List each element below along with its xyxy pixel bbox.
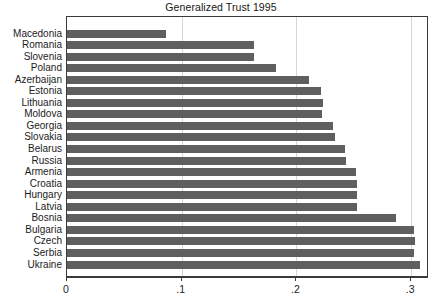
bar xyxy=(67,237,415,245)
x-tick-label: 0 xyxy=(54,283,78,295)
category-label: Russia xyxy=(0,155,62,166)
bar xyxy=(67,122,333,130)
x-tick xyxy=(181,277,182,281)
category-label: Lithuania xyxy=(0,97,62,108)
category-axis-labels: MacedoniaRomaniaSloveniaPolandAzerbaijan… xyxy=(0,16,62,277)
category-label: Romania xyxy=(0,39,62,50)
category-label: Serbia xyxy=(0,247,62,258)
category-label: Czech xyxy=(0,235,62,246)
x-tick-label: .3 xyxy=(398,283,422,295)
category-label: Belarus xyxy=(0,143,62,154)
x-tick xyxy=(410,277,411,281)
category-label: Macedonia xyxy=(0,28,62,39)
category-label: Moldova xyxy=(0,108,62,119)
bar xyxy=(67,214,396,222)
bar xyxy=(67,261,420,269)
category-label: Ukraine xyxy=(0,259,62,270)
x-tick xyxy=(66,277,67,281)
bar xyxy=(67,41,254,49)
category-label: Slovenia xyxy=(0,51,62,62)
bar xyxy=(67,99,323,107)
bar xyxy=(67,87,321,95)
category-label: Georgia xyxy=(0,120,62,131)
bar xyxy=(67,157,346,165)
bar xyxy=(67,249,414,257)
bar xyxy=(67,168,356,176)
category-label: Bulgaria xyxy=(0,224,62,235)
bar xyxy=(67,226,414,234)
category-label: Croatia xyxy=(0,178,62,189)
category-label: Poland xyxy=(0,62,62,73)
x-tick-label: .1 xyxy=(169,283,193,295)
category-label: Azerbaijan xyxy=(0,74,62,85)
bar xyxy=(67,64,276,72)
bar xyxy=(67,133,335,141)
category-label: Estonia xyxy=(0,85,62,96)
bar xyxy=(67,191,357,199)
generalized-trust-bar-chart: Generalized Trust 1995 MacedoniaRomaniaS… xyxy=(0,0,442,307)
chart-title: Generalized Trust 1995 xyxy=(0,1,442,14)
x-axis-line xyxy=(66,277,428,278)
bar xyxy=(67,53,254,61)
bar xyxy=(67,203,357,211)
plot-area xyxy=(66,16,428,277)
x-tick xyxy=(295,277,296,281)
category-label: Armenia xyxy=(0,166,62,177)
category-label: Bosnia xyxy=(0,212,62,223)
x-tick-label: .2 xyxy=(283,283,307,295)
bar xyxy=(67,145,345,153)
category-label: Latvia xyxy=(0,201,62,212)
category-label: Slovakia xyxy=(0,131,62,142)
bar xyxy=(67,30,166,38)
bar xyxy=(67,180,357,188)
bar xyxy=(67,110,322,118)
category-label: Hungary xyxy=(0,189,62,200)
bar xyxy=(67,76,309,84)
